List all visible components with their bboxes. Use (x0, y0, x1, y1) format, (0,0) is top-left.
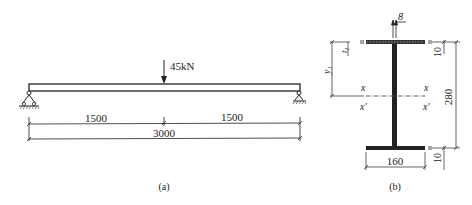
pin-support-icon (19, 91, 39, 109)
axis-xp-right: x′ (422, 101, 430, 112)
section-height: 280 (442, 88, 454, 105)
axis-x-right: x (423, 82, 429, 93)
diagram-canvas: 45kN (0, 0, 472, 205)
i-section-figure: 8 y1 t1 x x x′ x′ (321, 11, 460, 193)
dim-total-span: 3000 (153, 127, 176, 139)
weld-arrow-icon (392, 20, 407, 38)
t1-label: t1 (339, 47, 350, 53)
roller-support-icon (293, 91, 306, 104)
section-width: 160 (387, 155, 404, 167)
beam-figure: 45kN (19, 60, 306, 193)
dim-left-span: 1500 (85, 112, 108, 124)
top-flange-thickness: 10 (432, 47, 443, 57)
bottom-flange-thickness: 10 (432, 153, 443, 163)
axis-xp-left: x′ (359, 101, 367, 112)
top-label: 8 (398, 11, 403, 22)
caption-b: (b) (389, 181, 401, 193)
dim-right-span: 1500 (221, 111, 244, 123)
bottom-flange (366, 146, 425, 150)
beam (29, 84, 300, 91)
axis-x-left: x (360, 82, 366, 93)
caption-a: (a) (158, 181, 169, 193)
load-label: 45kN (170, 60, 195, 72)
point-load-arrow-icon (161, 60, 167, 84)
